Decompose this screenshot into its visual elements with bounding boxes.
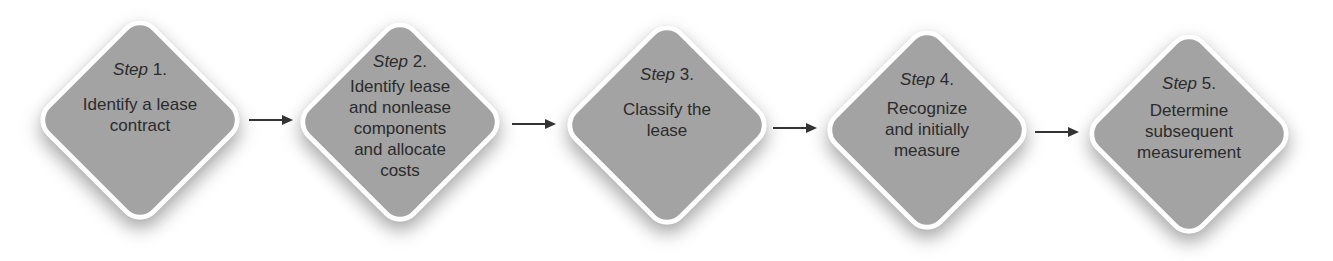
- step-word: Step: [900, 70, 935, 89]
- arrow-4-to-5: [1035, 131, 1077, 133]
- step-number: 2.: [408, 52, 427, 71]
- step-word: Step: [373, 52, 408, 71]
- arrow-3-to-4: [773, 127, 815, 129]
- step-number: 4.: [935, 70, 954, 89]
- step-number: 3.: [675, 65, 694, 84]
- step-word: Step: [640, 65, 675, 84]
- step-content: Step 4. Recognize and initially measure: [820, 23, 1034, 237]
- step-label: Step 3.: [640, 64, 694, 85]
- step-description: Recognize and initially measure: [862, 98, 992, 161]
- step-4-node: Step 4. Recognize and initially measure: [820, 23, 1034, 237]
- step-3-node: Step 3. Classify the lease: [560, 18, 774, 232]
- lease-process-flow: Step 1. Identify a lease contract Step 2…: [0, 0, 1333, 261]
- step-1-node: Step 1. Identify a lease contract: [33, 13, 247, 227]
- arrow-2-to-3: [512, 123, 554, 125]
- step-content: Step 5. Determine subsequent measurement: [1082, 27, 1296, 241]
- arrow-1-to-2: [249, 119, 291, 121]
- step-description: Identify a lease contract: [75, 94, 205, 136]
- step-number: 5.: [1197, 74, 1216, 93]
- step-word: Step: [1162, 74, 1197, 93]
- step-content: Step 3. Classify the lease: [560, 18, 774, 232]
- step-label: Step 1.: [113, 59, 167, 80]
- step-label: Step 4.: [900, 69, 954, 90]
- step-label: Step 5.: [1162, 73, 1216, 94]
- step-5-node: Step 5. Determine subsequent measurement: [1082, 27, 1296, 241]
- step-content: Step 2. Identify lease and nonlease comp…: [293, 15, 507, 229]
- step-description: Identify lease and nonlease components a…: [335, 76, 465, 181]
- step-description: Classify the lease: [602, 99, 732, 141]
- step-content: Step 1. Identify a lease contract: [33, 13, 247, 227]
- step-2-node: Step 2. Identify lease and nonlease comp…: [293, 15, 507, 229]
- step-label: Step 2.: [373, 51, 427, 72]
- step-word: Step: [113, 60, 148, 79]
- step-description: Determine subsequent measurement: [1124, 100, 1254, 163]
- step-number: 1.: [148, 60, 167, 79]
